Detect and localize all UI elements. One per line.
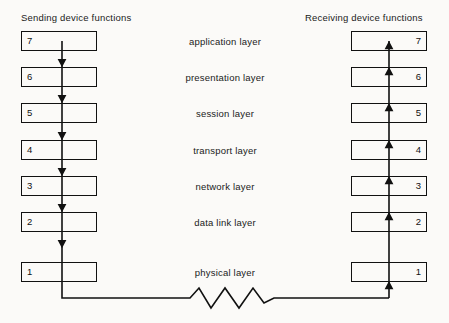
- sending-layer-box-4[interactable]: 4: [21, 140, 97, 160]
- sending-layer-box-7[interactable]: 7: [21, 31, 97, 51]
- receiving-layer-box-6[interactable]: 6: [351, 67, 427, 87]
- receiving-layer-number-7: 7: [416, 36, 421, 46]
- sending-layer-box-2[interactable]: 2: [21, 212, 97, 232]
- sending-layer-number-4: 4: [27, 145, 32, 155]
- sending-layer-number-2: 2: [27, 217, 32, 227]
- sending-layer-number-1: 1: [27, 267, 32, 277]
- receiving-layer-box-5[interactable]: 5: [351, 103, 427, 123]
- sending-layer-box-5[interactable]: 5: [21, 103, 97, 123]
- receiving-layer-number-4: 4: [416, 145, 421, 155]
- receiving-layer-box-2[interactable]: 2: [351, 212, 427, 232]
- receiving-layer-box-3[interactable]: 3: [351, 176, 427, 196]
- osi-layer-diagram: Sending device functions Receiving devic…: [0, 0, 449, 323]
- layer-label-data-link: data link layer: [150, 217, 300, 228]
- receiving-layer-number-3: 3: [416, 181, 421, 191]
- layer-label-physical: physical layer: [150, 267, 300, 278]
- layer-label-session: session layer: [150, 108, 300, 119]
- layer-label-application: application layer: [150, 36, 300, 47]
- receiving-device-header: Receiving device functions: [305, 12, 423, 23]
- receiving-layer-number-2: 2: [416, 217, 421, 227]
- receiving-layer-number-1: 1: [416, 267, 421, 277]
- sending-layer-box-1[interactable]: 1: [21, 262, 97, 282]
- sending-layer-number-3: 3: [27, 181, 32, 191]
- receiving-layer-box-1[interactable]: 1: [351, 262, 427, 282]
- sending-layer-number-7: 7: [27, 36, 32, 46]
- sending-layer-box-3[interactable]: 3: [21, 176, 97, 196]
- layer-label-network: network layer: [150, 181, 300, 192]
- receiving-layer-number-5: 5: [416, 108, 421, 118]
- sending-layer-number-6: 6: [27, 72, 32, 82]
- layer-label-transport: transport layer: [150, 145, 300, 156]
- receiving-layer-box-7[interactable]: 7: [351, 31, 427, 51]
- transmission-medium-zigzag: [62, 281, 389, 308]
- receiving-layer-number-6: 6: [416, 72, 421, 82]
- receiving-layer-box-4[interactable]: 4: [351, 140, 427, 160]
- sending-layer-number-5: 5: [27, 108, 32, 118]
- sending-layer-box-6[interactable]: 6: [21, 67, 97, 87]
- sending-device-header: Sending device functions: [21, 12, 131, 23]
- layer-label-presentation: presentation layer: [150, 72, 300, 83]
